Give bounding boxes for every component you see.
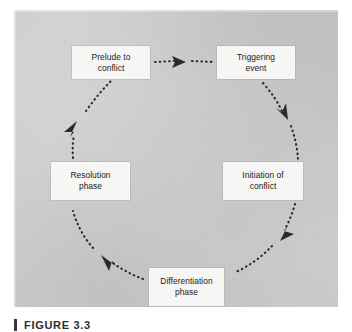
arrow-initiation-to-differentiation xyxy=(236,204,295,272)
node-prelude-line2: conflict xyxy=(98,63,125,74)
arrow-resolution-to-prelude xyxy=(64,81,111,158)
node-initiation-line1: Initiation of xyxy=(242,170,283,181)
node-differentiation-phase[interactable]: Differentiation phase xyxy=(149,268,224,306)
arrow-trigger-to-initiation xyxy=(263,83,298,159)
figure-caption: FIGURE 3.3 xyxy=(14,319,91,331)
diagram-panel: Prelude to conflict Triggering event Ini… xyxy=(14,10,338,307)
node-trigger-line1: Triggering xyxy=(237,52,275,63)
node-differentiation-line1: Differentiation xyxy=(160,276,212,287)
node-initiation-line2: conflict xyxy=(250,181,277,192)
node-resolution-phase[interactable]: Resolution phase xyxy=(51,162,130,200)
node-triggering-event[interactable]: Triggering event xyxy=(217,46,295,79)
node-differentiation-line2: phase xyxy=(175,287,198,298)
figure-container: Prelude to conflict Triggering event Ini… xyxy=(0,0,352,332)
arrow-differentiation-to-resolution xyxy=(73,211,143,279)
node-initiation-of-conflict[interactable]: Initiation of conflict xyxy=(223,162,303,200)
node-prelude-line1: Prelude to xyxy=(92,52,131,63)
node-trigger-line2: event xyxy=(246,63,267,74)
caption-rule-marker xyxy=(14,319,17,331)
node-prelude-to-conflict[interactable]: Prelude to conflict xyxy=(72,46,150,79)
node-resolution-line2: phase xyxy=(79,181,102,192)
node-resolution-line1: Resolution xyxy=(70,170,110,181)
arrow-prelude-to-trigger xyxy=(155,56,213,68)
caption-label: FIGURE 3.3 xyxy=(24,319,91,331)
